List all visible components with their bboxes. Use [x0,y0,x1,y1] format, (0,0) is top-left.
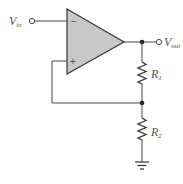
r1-zigzag [138,62,146,84]
ground-icon [135,162,149,169]
vin-label: Vin [9,14,22,29]
inverting-input-sign: − [71,16,77,27]
output-node: Vout [124,35,181,50]
schematic-svg: Vin − + Vout R1 [0,0,183,184]
circuit-diagram: Vin − + Vout R1 [0,0,183,184]
vout-terminal-circle [156,39,161,44]
resistor-r2: R2 [138,103,162,162]
feedback-path [52,61,142,103]
opamp: − + [67,9,124,74]
resistor-r1: R1 [138,42,162,103]
vout-label: Vout [164,35,181,50]
r1-label: R1 [150,67,162,82]
vin-terminal: Vin [9,14,67,29]
noninverting-input-sign: + [70,56,76,67]
vin-terminal-circle [29,18,34,23]
r2-zigzag [138,118,146,140]
r2-label: R2 [150,125,162,140]
feedback-wire [52,61,144,105]
